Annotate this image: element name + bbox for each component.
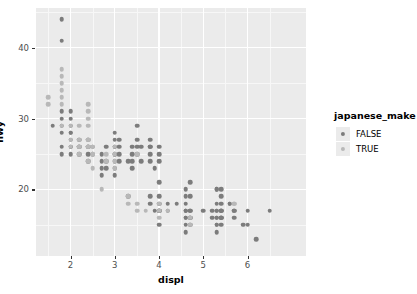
data-point xyxy=(157,194,162,199)
data-point xyxy=(157,145,162,150)
gridline-minor-x xyxy=(48,8,49,256)
x-tick-label: 3 xyxy=(105,260,125,270)
data-point xyxy=(59,74,64,79)
gridline-major-y xyxy=(36,189,306,190)
gridline-major-x xyxy=(203,8,204,256)
x-tick-label: 5 xyxy=(193,260,213,270)
data-point xyxy=(245,208,250,213)
data-point xyxy=(77,152,82,157)
data-point xyxy=(130,166,135,171)
data-point xyxy=(86,159,91,164)
data-point xyxy=(188,208,193,213)
data-point xyxy=(201,208,206,213)
legend-point-icon xyxy=(341,131,345,135)
y-axis-title: hwy xyxy=(0,121,5,143)
data-point xyxy=(117,137,122,142)
data-point xyxy=(86,102,91,107)
data-point xyxy=(59,81,64,86)
x-tick-mark xyxy=(159,256,160,259)
data-point xyxy=(126,194,131,199)
gridline-minor-y xyxy=(36,225,306,226)
data-point xyxy=(86,137,91,142)
gridline-minor-y xyxy=(36,12,306,13)
data-point xyxy=(46,95,51,100)
data-point xyxy=(188,223,193,228)
x-tick-mark xyxy=(115,256,116,259)
gridline-minor-x xyxy=(225,8,226,256)
data-point xyxy=(148,137,153,142)
legend-item-label: TRUE xyxy=(356,144,379,154)
x-axis-title: displ xyxy=(36,274,306,285)
data-point xyxy=(174,201,179,206)
data-point xyxy=(166,201,171,206)
data-point xyxy=(77,145,82,150)
data-point xyxy=(139,145,144,150)
data-point xyxy=(68,116,73,121)
data-point xyxy=(99,187,104,192)
data-point xyxy=(68,130,73,135)
data-point xyxy=(59,102,64,107)
data-point xyxy=(77,137,82,142)
x-tick-label: 6 xyxy=(238,260,258,270)
data-point xyxy=(68,137,73,142)
data-point xyxy=(232,215,237,220)
legend-key-swatch xyxy=(336,127,350,141)
data-point xyxy=(130,159,135,164)
data-point xyxy=(90,166,95,171)
data-point xyxy=(90,145,95,150)
y-tick-label: 30 xyxy=(10,114,29,124)
data-point xyxy=(135,137,140,142)
data-point xyxy=(68,109,73,114)
legend-item[interactable]: TRUE xyxy=(336,141,416,156)
data-point xyxy=(135,201,140,206)
data-point xyxy=(68,123,73,128)
data-point xyxy=(183,187,188,192)
data-point xyxy=(157,152,162,157)
data-point xyxy=(68,152,73,157)
data-point xyxy=(139,159,144,164)
data-point xyxy=(214,230,219,235)
data-point xyxy=(183,201,188,206)
data-point xyxy=(77,123,82,128)
gridline-minor-x xyxy=(93,8,94,256)
legend-key-swatch xyxy=(336,142,350,156)
data-point xyxy=(254,237,259,242)
data-point xyxy=(59,123,64,128)
legend-item[interactable]: FALSE xyxy=(336,126,416,141)
data-point xyxy=(86,116,91,121)
data-point xyxy=(59,152,64,157)
data-point xyxy=(148,145,153,150)
data-point xyxy=(112,159,117,164)
data-point xyxy=(99,173,104,178)
y-tick-label: 20 xyxy=(10,184,29,194)
y-tick-mark xyxy=(32,189,35,190)
data-point xyxy=(135,208,140,213)
data-point xyxy=(59,116,64,121)
data-point xyxy=(86,123,91,128)
data-point xyxy=(112,145,117,150)
data-point xyxy=(112,173,117,178)
gridline-minor-x xyxy=(181,8,182,256)
data-point xyxy=(104,166,109,171)
data-point xyxy=(183,230,188,235)
data-point xyxy=(166,208,171,213)
data-point xyxy=(59,17,64,22)
data-point xyxy=(86,109,91,114)
gridline-major-x xyxy=(247,8,248,256)
data-point xyxy=(267,208,272,213)
data-point xyxy=(117,145,122,150)
legend: japanese_make FALSETRUE xyxy=(334,110,416,156)
legend-title: japanese_make xyxy=(334,110,416,121)
data-point xyxy=(59,67,64,72)
legend-entries: FALSETRUE xyxy=(334,126,416,156)
data-point xyxy=(59,109,64,114)
x-tick-mark xyxy=(248,256,249,259)
x-tick-mark xyxy=(203,256,204,259)
data-point xyxy=(68,145,73,150)
data-point xyxy=(148,194,153,199)
data-point xyxy=(188,194,193,199)
data-point xyxy=(219,201,224,206)
x-tick-mark xyxy=(71,256,72,259)
data-point xyxy=(152,166,157,171)
gridline-minor-x xyxy=(270,8,271,256)
